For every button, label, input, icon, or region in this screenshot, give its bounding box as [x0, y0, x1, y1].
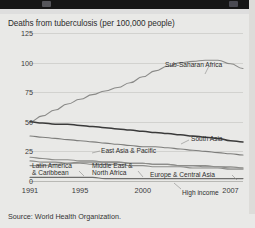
- chart-figure: Deaths from tuberculosis (per 100,000 pe…: [0, 14, 255, 228]
- window-chrome-bar: [0, 0, 255, 9]
- series-label-middle-east-north-africa: Middle East &North Africa: [92, 162, 133, 177]
- leader-line-latin-america: [79, 171, 84, 176]
- series-label-europe-central-asia: Europe & Central Asia: [150, 171, 215, 178]
- series-label-high-income: High income: [182, 189, 219, 196]
- chrome-mark-right-icon: [229, 1, 238, 7]
- series-label-south-asia: South Asia: [191, 135, 223, 142]
- leader-line-europe-central-asia: [232, 175, 237, 180]
- series-label-latin-america-caribbean: Latin America& Caribbean: [32, 162, 72, 177]
- leader-line-middle-east: [138, 171, 143, 177]
- chrome-mark-left-icon: [42, 1, 51, 7]
- source-note: Source: World Health Organization.: [8, 212, 121, 221]
- series-label-sub-saharan-africa: Sub-Saharan Africa: [165, 61, 222, 68]
- chart-plot-area: 0255075100125 1991199520002007 Sub-Sahar…: [0, 14, 255, 228]
- right-edge-shade: [249, 0, 255, 214]
- series-line-sub-saharan-africa: [30, 60, 243, 122]
- leader-line-high-income: [174, 183, 181, 189]
- leader-line-south-asia: [181, 140, 189, 144]
- screenshot-page: Deaths from tuberculosis (per 100,000 pe…: [0, 0, 255, 228]
- series-label-east-asia-pacific: East Asia & Pacific: [101, 147, 156, 154]
- leader-line-east-asia-pacific: [92, 151, 100, 153]
